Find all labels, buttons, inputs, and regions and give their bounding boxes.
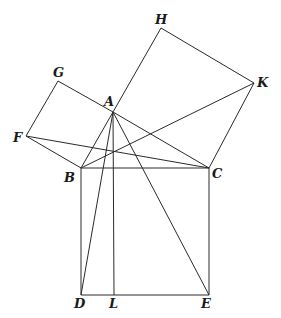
label-c: C <box>212 166 223 181</box>
label-f: F <box>12 130 23 145</box>
label-b: B <box>63 170 75 185</box>
segment-ah <box>113 28 161 112</box>
label-k: K <box>256 75 269 90</box>
pythagorean-diagram: A B C D E L F G H K <box>0 0 281 318</box>
label-a: A <box>102 94 114 109</box>
label-l: L <box>108 296 118 311</box>
segment-kc <box>209 83 254 168</box>
label-d: D <box>73 296 86 311</box>
label-h: H <box>154 12 168 27</box>
segment-al <box>113 112 114 295</box>
label-e: E <box>200 296 212 311</box>
label-g: G <box>53 65 64 80</box>
segment-fg <box>26 81 58 136</box>
labels: A B C D E L F G H K <box>12 12 269 311</box>
segment-hk <box>161 28 254 83</box>
